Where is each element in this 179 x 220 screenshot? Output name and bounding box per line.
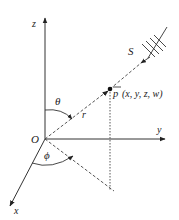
phi-label: ϕ	[44, 149, 50, 161]
point-coordinates: (x, y, z, w)	[122, 88, 163, 100]
y-axis-label: y	[156, 124, 162, 135]
z-axis-label: z	[31, 18, 36, 29]
point-marker	[108, 87, 113, 92]
x-axis-label: x	[13, 205, 19, 216]
ray-dashed	[110, 63, 141, 89]
origin-label: O	[31, 133, 39, 145]
x-axis	[10, 139, 45, 206]
phi-arc	[32, 156, 73, 165]
radius-label: r	[82, 109, 86, 120]
source-label: S	[128, 45, 134, 57]
theta-label: θ	[55, 95, 61, 107]
spherical-coordinates-diagram: z y x O r S p (x, y, z, w) θ ϕ	[0, 0, 179, 220]
theta-arc	[45, 110, 72, 119]
projection-line	[45, 139, 114, 191]
point-arrow	[104, 91, 108, 94]
point-label: p	[112, 88, 118, 99]
source-hatch-icon	[142, 35, 166, 57]
ray-arrow	[141, 57, 150, 63]
